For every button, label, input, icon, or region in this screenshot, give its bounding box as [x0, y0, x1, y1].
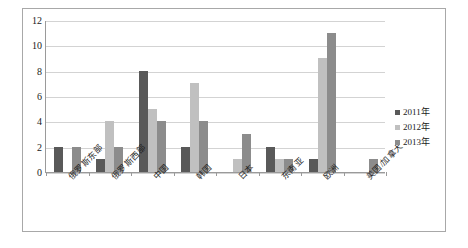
- legend-swatch-icon: [395, 140, 400, 145]
- legend-swatch-icon: [395, 110, 400, 115]
- bar: [266, 147, 275, 172]
- x-axis-labels: 俄罗斯东部俄罗斯西部中国韩国日本东南亚欧洲美国/加拿大: [45, 173, 385, 231]
- legend-item[interactable]: 2012年: [395, 120, 459, 135]
- bar-group: [259, 21, 302, 172]
- y-tick-label-8: 8: [37, 67, 42, 77]
- chart-legend: 2011年2012年2013年: [395, 105, 459, 150]
- x-tick: [386, 172, 387, 176]
- bar: [309, 159, 318, 172]
- bar-group: [216, 21, 259, 172]
- bar-group: [174, 21, 217, 172]
- bar-group: [46, 21, 89, 172]
- bar: [148, 109, 157, 172]
- y-tick-label-2: 2: [37, 143, 42, 153]
- bar: [105, 121, 114, 172]
- bar: [190, 83, 199, 172]
- y-tick-label-4: 4: [37, 117, 42, 127]
- legend-label: 2011年: [403, 108, 430, 117]
- bar-group: [344, 21, 387, 172]
- chart-frame: 024681012 俄罗斯东部俄罗斯西部中国韩国日本东南亚欧洲美国/加拿大 20…: [22, 8, 446, 232]
- legend-label: 2013年: [403, 138, 430, 147]
- y-tick-label-6: 6: [37, 92, 42, 102]
- y-tick-label-12: 12: [32, 16, 42, 26]
- legend-item[interactable]: 2011年: [395, 105, 459, 120]
- y-tick-label-10: 10: [32, 41, 42, 51]
- bar: [327, 33, 336, 172]
- y-tick-label-0: 0: [37, 168, 42, 178]
- bar: [318, 58, 327, 172]
- legend-swatch-icon: [395, 125, 400, 130]
- bar-group: [301, 21, 344, 172]
- bar: [181, 147, 190, 172]
- bar: [96, 159, 105, 172]
- legend-label: 2012年: [403, 123, 430, 132]
- legend-item[interactable]: 2013年: [395, 135, 459, 150]
- bar: [54, 147, 63, 172]
